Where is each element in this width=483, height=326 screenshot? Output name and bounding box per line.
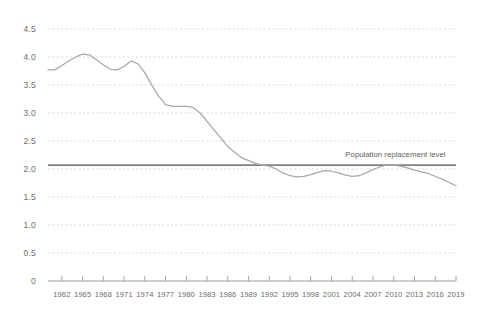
x-axis-tick-label: 2019 (441, 291, 471, 299)
y-axis-tick-label: 4.5 (8, 25, 36, 34)
y-axis-tick-label: 2.0 (8, 165, 36, 174)
y-axis-tick-label: 3.5 (8, 81, 36, 90)
fertility-rate-chart: 4.54.03.53.02.52.01.51.00.50 19621965196… (0, 0, 483, 326)
y-axis-tick-label: 3.0 (8, 109, 36, 118)
x-axis-ticks-group (62, 276, 456, 281)
y-axis-tick-label: 2.5 (8, 137, 36, 146)
gridlines-group (48, 29, 456, 253)
y-axis-tick-label: 0.5 (8, 249, 36, 258)
fertility-rate-line (48, 54, 456, 186)
y-axis-tick-label: 4.0 (8, 53, 36, 62)
chart-plot-area (0, 0, 483, 326)
y-axis-tick-label: 1.5 (8, 193, 36, 202)
y-axis-tick-label: 1.0 (8, 221, 36, 230)
replacement-level-annotation: Population replacement level (345, 151, 445, 159)
y-axis-tick-label: 0 (8, 277, 36, 286)
